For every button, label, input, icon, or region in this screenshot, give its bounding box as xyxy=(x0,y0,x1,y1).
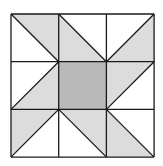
quilt-block-diagram xyxy=(0,0,163,166)
center-square xyxy=(59,62,107,110)
